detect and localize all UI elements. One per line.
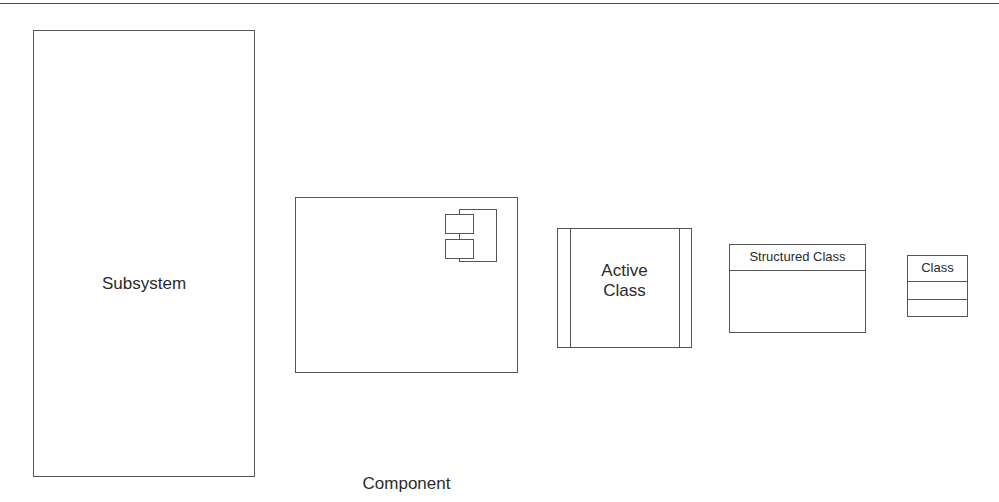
component-icon-tab-top: [445, 214, 474, 234]
structured-class-compartment-divider: [730, 270, 865, 271]
structured-class-label: Structured Class: [730, 249, 865, 264]
component-label: Component: [296, 474, 517, 494]
class-shape[interactable]: Class: [907, 255, 968, 317]
component-shape[interactable]: Component: [295, 197, 518, 373]
class-attributes-divider: [908, 281, 967, 282]
subsystem-shape[interactable]: Subsystem: [33, 30, 255, 477]
structured-class-shape[interactable]: Structured Class: [729, 244, 866, 333]
diagram-canvas: Subsystem Component ActiveClass Structur…: [0, 0, 999, 502]
top-divider-rule: [0, 3, 999, 4]
active-class-label: ActiveClass: [558, 261, 691, 301]
subsystem-label: Subsystem: [34, 274, 254, 294]
uml-component-icon: [443, 206, 501, 266]
active-class-label-line1: Active: [601, 261, 647, 280]
active-class-shape[interactable]: ActiveClass: [557, 228, 692, 348]
active-class-left-bar: [570, 229, 571, 347]
active-class-label-line2: Class: [603, 281, 646, 300]
active-class-right-bar: [679, 229, 680, 347]
class-label: Class: [908, 260, 967, 275]
class-operations-divider: [908, 299, 967, 300]
component-icon-tab-bottom: [445, 239, 474, 259]
